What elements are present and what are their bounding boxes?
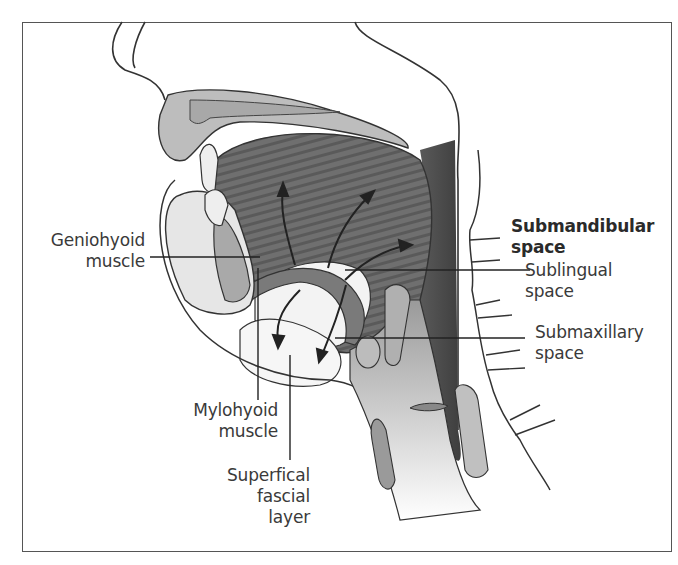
label-line: fascial: [200, 486, 310, 507]
label-line: Submandibular: [511, 216, 654, 237]
label-superficial-fascial-layer: Superfical fascial layer: [200, 465, 310, 528]
label-sublingual-space: Sublingual space: [525, 260, 612, 302]
label-line: Geniohyoid: [40, 230, 145, 251]
label-line: space: [525, 281, 612, 302]
hyoid: [356, 336, 380, 368]
label-mylohyoid-muscle: Mylohyoid muscle: [170, 400, 278, 442]
label-line: layer: [200, 507, 310, 528]
label-line: Sublingual: [525, 260, 612, 281]
label-line: Superfical: [200, 465, 310, 486]
label-line: Submaxillary: [535, 322, 644, 343]
label-geniohyoid-muscle: Geniohyoid muscle: [40, 230, 145, 272]
label-line: space: [535, 343, 644, 364]
label-submandibular-space: Submandibular space: [511, 216, 654, 258]
label-submaxillary-space: Submaxillary space: [535, 322, 644, 364]
label-line: Mylohyoid: [170, 400, 278, 421]
label-line: muscle: [170, 421, 278, 442]
teeth: [200, 144, 218, 192]
label-line: muscle: [40, 251, 145, 272]
label-line: space: [511, 237, 654, 258]
